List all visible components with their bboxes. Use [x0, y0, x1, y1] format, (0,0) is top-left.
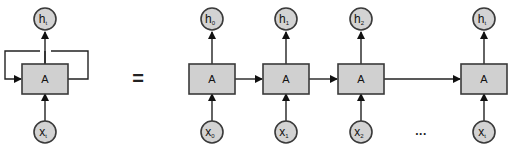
cell-label: A	[480, 73, 488, 85]
input-node	[275, 121, 297, 143]
cell-label: A	[357, 73, 365, 85]
rolled-rnn: A ht xt	[5, 8, 88, 143]
cell-label: A	[282, 73, 290, 85]
timestep-2: A h2 x2	[338, 8, 384, 143]
timestep-1: A h1 x1	[263, 8, 309, 143]
equals-sign: =	[132, 67, 144, 89]
cell-label: A	[41, 73, 49, 85]
cell-label: A	[208, 73, 216, 85]
unrolled-rnn: A h0 x0 A h1 x1 A h2 x2	[189, 8, 507, 143]
input-node	[350, 121, 372, 143]
ellipsis: ...	[415, 124, 427, 138]
timestep-0: A h0 x0	[189, 8, 235, 143]
input-node	[201, 121, 223, 143]
timestep-t: A ht xt	[461, 8, 507, 143]
rnn-diagram: A ht xt = A h0 x0	[0, 0, 512, 153]
